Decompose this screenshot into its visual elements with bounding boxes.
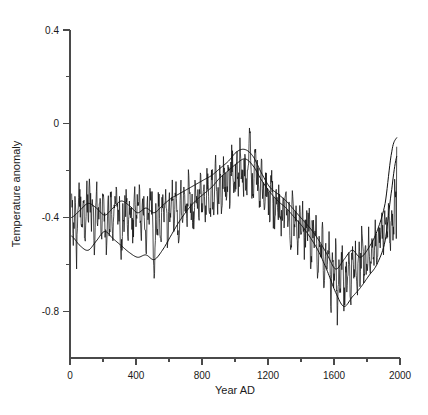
x-tick-label: 800 <box>194 370 211 381</box>
y-tick-label: 0.4 <box>45 25 59 36</box>
x-axis-title: Year AD <box>215 384 255 396</box>
axes <box>70 30 400 358</box>
x-tick-label: 1200 <box>257 370 280 381</box>
x-tick-label: 1600 <box>323 370 346 381</box>
y-axis-minor-ticks <box>66 77 70 264</box>
series-annual-reconstruction <box>72 128 397 325</box>
y-tick-label: -0.4 <box>42 212 60 223</box>
x-tick-label: 400 <box>128 370 145 381</box>
data-series-group <box>72 128 397 325</box>
x-axis-tick-labels: 0400800120016002000 <box>67 370 411 381</box>
y-tick-label: 0 <box>53 118 59 129</box>
y-tick-label: -0.8 <box>42 306 60 317</box>
x-axis-minor-ticks <box>103 358 367 362</box>
y-axis-tick-labels: 0.40-0.4-0.8 <box>42 25 60 317</box>
temperature-anomaly-chart: 0.40-0.4-0.8 0400800120016002000 Year AD… <box>0 0 428 415</box>
y-axis-title: Temperature anomaly <box>10 140 22 247</box>
chart-canvas: 0.40-0.4-0.8 0400800120016002000 Year AD… <box>0 0 428 415</box>
x-tick-label: 2000 <box>389 370 412 381</box>
x-tick-label: 0 <box>67 370 73 381</box>
